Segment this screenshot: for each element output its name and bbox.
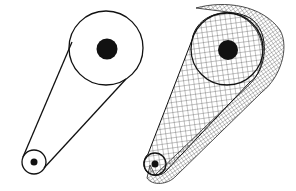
pulley-diagram <box>0 0 296 191</box>
large-pulley-hub-3d <box>218 40 238 60</box>
small-pulley-hub <box>31 159 38 166</box>
large-pulley-hub <box>97 39 118 60</box>
left-2d-view <box>22 11 143 174</box>
right-3d-view <box>144 4 284 183</box>
belt-upper-line <box>23 42 72 157</box>
belt-lower-line <box>44 79 126 168</box>
small-pulley-hub-3d <box>152 161 159 168</box>
